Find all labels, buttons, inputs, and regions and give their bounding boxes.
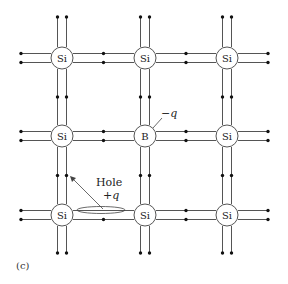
electron-dot [230, 15, 233, 18]
electron-dot [184, 61, 187, 64]
silicon-atom: Si [134, 204, 156, 226]
silicon-atom: Si [216, 125, 238, 147]
silicon-atom: Si [51, 125, 73, 147]
electron-dot [266, 130, 269, 133]
electron-dot [102, 139, 105, 142]
silicon-atom: Si [216, 204, 238, 226]
electron-dot [148, 174, 151, 177]
figure-caption: (c) [16, 260, 30, 271]
atom-label: Si [222, 53, 232, 64]
electron-dot [221, 15, 224, 18]
atoms: SiSiSiSiBSiSiSiSi [51, 47, 238, 226]
boron-charge-label: −q [161, 107, 177, 120]
atom-label: Si [140, 210, 150, 221]
electron-dot [65, 95, 68, 98]
electron-dot [266, 61, 269, 64]
electron-dot [184, 209, 187, 212]
atom-label: Si [57, 210, 67, 221]
silicon-atom: Si [216, 47, 238, 69]
electron-dot [230, 95, 233, 98]
electron-dot [139, 15, 142, 18]
hole-charge-label: +q [103, 189, 119, 202]
electron-dot [139, 174, 142, 177]
electron-dot [139, 95, 142, 98]
atom-label: B [141, 131, 148, 142]
silicon-atom: Si [51, 47, 73, 69]
electron-dot [56, 15, 59, 18]
electron-dot [56, 174, 59, 177]
electron-dot [148, 251, 151, 254]
electron-dot [184, 52, 187, 55]
electron-dot [19, 52, 22, 55]
electron-dot [65, 15, 68, 18]
silicon-atom: Si [134, 47, 156, 69]
electron-dot [184, 139, 187, 142]
atom-label: Si [222, 131, 232, 142]
electron-dot [266, 209, 269, 212]
electron-dot [102, 218, 105, 221]
electron-dot [139, 251, 142, 254]
silicon-atom: Si [51, 204, 73, 226]
electron-dot [65, 251, 68, 254]
electron-dot [266, 52, 269, 55]
electron-dot [266, 218, 269, 221]
electron-dot [221, 174, 224, 177]
atom-label: Si [57, 131, 67, 142]
boron-atom: B [134, 125, 156, 147]
electron-dot [102, 130, 105, 133]
atom-label: Si [57, 53, 67, 64]
electron-dot [102, 52, 105, 55]
electron-dot [184, 218, 187, 221]
electron-dot [148, 95, 151, 98]
lattice-diagram: SiSiSiSiBSiSiSiSi −q Hole +q (c) [0, 0, 288, 284]
electron-dot [19, 139, 22, 142]
electron-dot [230, 174, 233, 177]
electron-dot [56, 251, 59, 254]
electron-dot [221, 95, 224, 98]
electron-dot [184, 130, 187, 133]
electron-dot [19, 130, 22, 133]
atom-label: Si [222, 210, 232, 221]
electron-dot [19, 209, 22, 212]
electron-dot [221, 251, 224, 254]
electron-dot [102, 61, 105, 64]
electron-dot [230, 251, 233, 254]
electron-dot [56, 95, 59, 98]
electron-dot [19, 218, 22, 221]
atom-label: Si [140, 53, 150, 64]
hole-label: Hole [96, 176, 122, 189]
electron-dot [266, 139, 269, 142]
electron-dot [19, 61, 22, 64]
electron-dot [65, 174, 68, 177]
electron-dot [148, 15, 151, 18]
